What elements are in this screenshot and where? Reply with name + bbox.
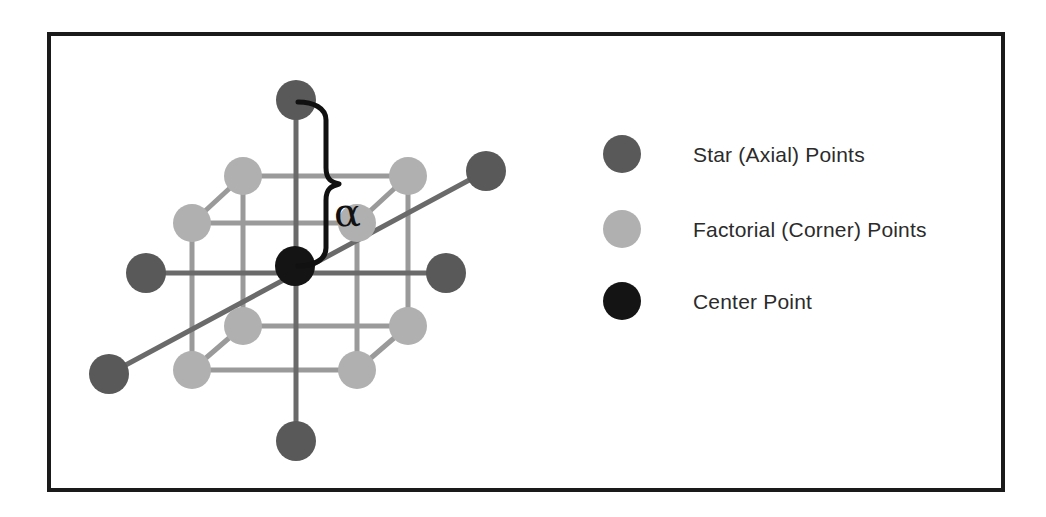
- factorial-point-bottom-back-left: [224, 307, 262, 345]
- figure-page: α Star (Axial) Points Factorial (Corner)…: [0, 0, 1046, 517]
- center-point-swatch-icon: [603, 282, 641, 320]
- legend-label-center-point: Center Point: [693, 291, 812, 312]
- star-point-back-upper: [466, 151, 506, 191]
- factorial-point-bottom-back-right: [389, 307, 427, 345]
- star-point-left: [126, 253, 166, 293]
- star-points-swatch-icon: [603, 135, 641, 173]
- factorial-point-top-back-right: [389, 157, 427, 195]
- legend: Star (Axial) Points Factorial (Corner) P…: [603, 102, 993, 332]
- star-point-top: [276, 80, 316, 120]
- legend-label-factorial-points: Factorial (Corner) Points: [693, 219, 927, 240]
- legend-label-star-points: Star (Axial) Points: [693, 144, 865, 165]
- alpha-brace: [298, 102, 339, 266]
- factorial-point-bottom-front-left: [173, 351, 211, 389]
- legend-item-star-points: Star (Axial) Points: [603, 134, 865, 174]
- star-point-front-lower: [89, 354, 129, 394]
- figure-frame-border: α Star (Axial) Points Factorial (Corner)…: [47, 32, 1005, 492]
- factorial-point-bottom-front-right: [338, 351, 376, 389]
- factorial-point-top-front-left: [173, 204, 211, 242]
- factorial-points-swatch-icon: [603, 210, 641, 248]
- star-point-bottom: [276, 421, 316, 461]
- alpha-distance-label: α: [334, 189, 361, 235]
- star-point-right: [426, 253, 466, 293]
- legend-item-center-point: Center Point: [603, 281, 812, 321]
- factorial-point-top-back-left: [224, 157, 262, 195]
- legend-item-factorial-points: Factorial (Corner) Points: [603, 209, 927, 249]
